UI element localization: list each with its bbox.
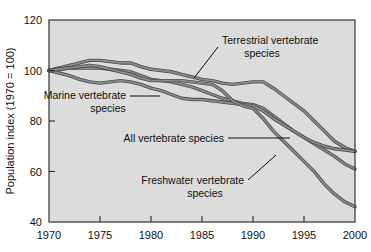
annotation-marine-line1: Marine vertebrate xyxy=(44,89,126,101)
x-axis-tick-labels: 1970197519801985199019952000 xyxy=(37,229,367,241)
chart-canvas: 406080100120 197019751980198519901995200… xyxy=(0,0,371,252)
annotation-terrestrial-line1: Terrestrial vertebrate xyxy=(222,34,318,46)
y-axis-label: Population index (1970 = 100) xyxy=(4,47,16,194)
x-tick-label-1970: 1970 xyxy=(37,229,61,241)
y-tick-label-80: 80 xyxy=(30,115,42,127)
y-tick-label-120: 120 xyxy=(24,14,42,26)
y-tick-label-40: 40 xyxy=(30,216,42,228)
annotation-marine-line2: species xyxy=(90,102,126,114)
annotation-freshwater-line1: Freshwater vertebrate xyxy=(141,174,244,186)
y-tick-label-60: 60 xyxy=(30,166,42,178)
x-tick-label-1985: 1985 xyxy=(190,229,214,241)
annotation-freshwater-line2: species xyxy=(187,187,223,199)
y-axis-tick-labels: 406080100120 xyxy=(24,14,42,228)
y-tick-label-100: 100 xyxy=(24,65,42,77)
x-tick-label-1975: 1975 xyxy=(88,229,112,241)
x-tick-label-1995: 1995 xyxy=(292,229,316,241)
x-tick-label-1990: 1990 xyxy=(241,229,265,241)
annotation-all-line1: All vertebrate species xyxy=(124,132,224,144)
x-tick-label-1980: 1980 xyxy=(139,229,163,241)
annotation-terrestrial-line2: species xyxy=(244,47,280,59)
population-index-chart: 406080100120 197019751980198519901995200… xyxy=(0,0,371,252)
x-tick-label-2000: 2000 xyxy=(343,229,367,241)
